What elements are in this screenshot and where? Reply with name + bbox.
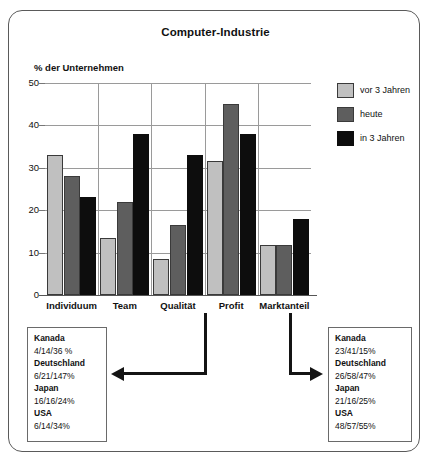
bar	[80, 197, 96, 295]
bar	[293, 219, 309, 295]
legend-swatch	[337, 131, 354, 146]
bar	[276, 245, 292, 295]
y-tick-mark	[38, 125, 45, 126]
bar	[117, 202, 133, 295]
y-tick-label: 10	[0, 247, 39, 258]
annotation-country: USA	[335, 407, 405, 420]
annotation-country: Japan	[335, 382, 405, 395]
bar	[240, 134, 256, 295]
x-tick-label: Profit	[205, 300, 258, 311]
bar	[64, 176, 80, 295]
y-axis-label: % der Unternehmen	[34, 62, 124, 73]
bar	[260, 245, 276, 295]
annotation-values: 6/21/147%	[34, 370, 100, 383]
annotation-country: Deutschland	[335, 357, 405, 370]
x-tick-label: Team	[98, 300, 151, 311]
connector-vertical-qualitaet	[204, 313, 207, 375]
y-tick-label: 40	[0, 119, 39, 130]
y-tick-mark	[38, 253, 45, 254]
bar	[170, 225, 186, 295]
legend-label: vor 3 Jahren	[360, 85, 410, 95]
legend-label: heute	[360, 109, 383, 119]
y-tick-label: 0	[0, 289, 39, 300]
annotation-values: 6/14/34%	[34, 420, 100, 433]
annotation-country: Deutschland	[34, 357, 100, 370]
annotation-values: 16/16/24%	[34, 395, 100, 408]
bar	[153, 259, 169, 295]
chart-title: Computer-Industrie	[0, 26, 431, 38]
annotation-country: Kanada	[335, 332, 405, 345]
bar	[47, 155, 63, 295]
y-tick-label: 20	[0, 204, 39, 215]
connector-horizontal-profit	[289, 372, 311, 375]
bar-group	[45, 83, 98, 295]
x-tick-label: Qualität	[151, 300, 204, 311]
y-tick-label: 30	[0, 162, 39, 173]
plot-area	[45, 83, 311, 295]
annotation-country: Japan	[34, 382, 100, 395]
bar	[207, 161, 223, 295]
annotation-values: 21/16/25%	[335, 395, 405, 408]
legend-item: vor 3 Jahren	[337, 78, 423, 102]
x-tick-label: Marktanteil	[258, 300, 311, 311]
legend-label: in 3 Jahren	[360, 133, 405, 143]
annotation-values: 48/57/55%	[335, 420, 405, 433]
bar	[187, 155, 203, 295]
bar-group	[258, 83, 311, 295]
annotation-country: Kanada	[34, 332, 100, 345]
annotation-values: 4/14/36 %	[34, 345, 100, 358]
bar-group	[151, 83, 204, 295]
arrow-head-left	[111, 367, 124, 381]
annotation-box-right: Kanada23/41/15%Deutschland26/58/47%Japan…	[328, 327, 412, 442]
annotation-values: 26/58/47%	[335, 370, 405, 383]
annotation-box-left: Kanada4/14/36 %Deutschland6/21/147%Japan…	[27, 327, 107, 442]
connector-vertical-profit	[289, 313, 292, 375]
x-tick-label: Individuum	[45, 300, 98, 311]
connector-horizontal-qualitaet	[124, 372, 207, 375]
annotation-values: 23/41/15%	[335, 345, 405, 358]
bar	[100, 238, 116, 295]
legend-item: in 3 Jahren	[337, 126, 423, 150]
bar-group	[98, 83, 151, 295]
legend-swatch	[337, 107, 354, 122]
y-tick-mark	[38, 168, 45, 169]
bar	[223, 104, 239, 295]
y-tick-mark	[38, 83, 45, 84]
arrow-head-right	[310, 367, 323, 381]
chart-legend: vor 3 Jahrenheutein 3 Jahren	[337, 78, 423, 150]
y-tick-label: 50	[0, 77, 39, 88]
y-tick-mark	[38, 210, 45, 211]
bar-group	[205, 83, 258, 295]
bar	[133, 134, 149, 295]
annotation-country: USA	[34, 407, 100, 420]
legend-swatch	[337, 83, 354, 98]
chart-figure: Computer-Industrie % der Unternehmen 010…	[0, 0, 431, 464]
legend-item: heute	[337, 102, 423, 126]
